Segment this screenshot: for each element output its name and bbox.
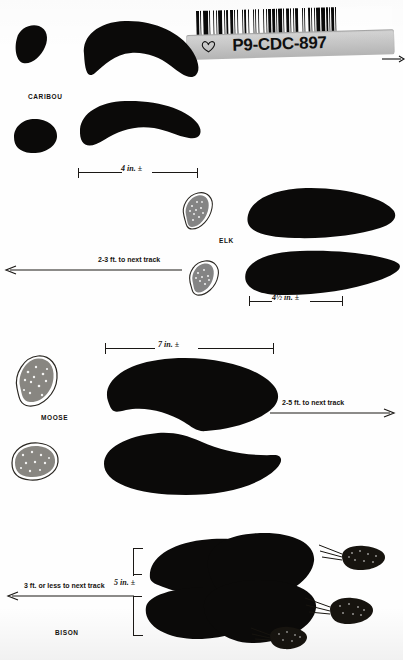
archive-label: P9-CDC-897 — [186, 11, 398, 69]
elk-droppings-upper — [180, 190, 216, 232]
arrow-right-icon — [382, 54, 406, 64]
moose-hoof-print-upper — [96, 355, 282, 435]
elk-width-value: 4½ in. ± — [272, 293, 299, 302]
elk-hoof-print-upper — [240, 185, 398, 243]
moose-label: MOOSE — [41, 414, 68, 421]
elk-droppings-lower — [186, 258, 222, 298]
caribou-hoof-print-upper-left — [8, 22, 58, 70]
bison-droppings-upper — [318, 542, 390, 576]
caribou-hoof-print-upper-right — [72, 18, 202, 96]
arrow-left-icon — [4, 588, 136, 602]
elk-stride-text: 2-3 ft. to next track — [98, 256, 160, 263]
moose-width-value: 7 in. ± — [158, 340, 179, 349]
caribou-hoof-print-lower-left — [8, 112, 64, 160]
caribou-label: CARIBOU — [28, 93, 63, 100]
moose-stride-text: 2-5 ft. to next track — [282, 399, 344, 406]
heart-outline-icon — [200, 39, 216, 53]
moose-hoof-print-lower — [96, 424, 284, 496]
arrow-right-icon — [268, 405, 396, 419]
elk-hoof-print-lower — [240, 248, 404, 300]
label-plate: P9-CDC-897 — [186, 29, 395, 60]
elk-label: ELK — [219, 237, 234, 244]
moose-droppings-upper — [12, 352, 64, 410]
moose-droppings-lower — [8, 438, 62, 486]
bison-height-value: 5 in. ± — [114, 578, 135, 587]
bison-label: BISON — [55, 629, 79, 636]
bison-stride-text: 3 ft. or less to next track — [24, 582, 105, 589]
arrow-left-icon — [4, 262, 184, 276]
bison-droppings-lower — [250, 624, 312, 654]
bison-droppings-middle — [304, 594, 378, 630]
archive-code: P9-CDC-897 — [232, 33, 327, 56]
caribou-hoof-print-lower-right — [72, 96, 204, 158]
caribou-width-value: 4 in. ± — [121, 164, 142, 173]
